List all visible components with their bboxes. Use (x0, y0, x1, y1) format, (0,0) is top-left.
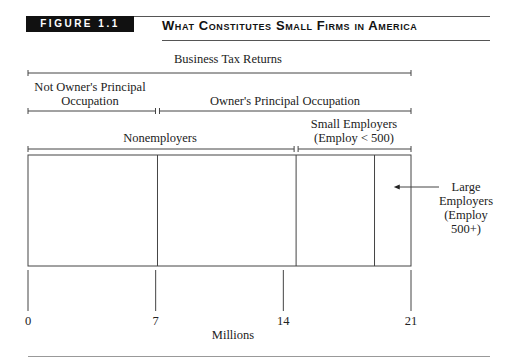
x-axis-label: Millions (193, 328, 273, 342)
tick-label-14: 14 (263, 314, 303, 328)
annotation-arrow-head (394, 185, 400, 190)
tick-label-7: 7 (136, 314, 176, 328)
tick-label-21: 21 (391, 314, 431, 328)
diagram-canvas (0, 0, 518, 358)
bottom-rule (28, 356, 490, 357)
segment-box (28, 155, 411, 266)
tick-label-0: 0 (8, 314, 48, 328)
